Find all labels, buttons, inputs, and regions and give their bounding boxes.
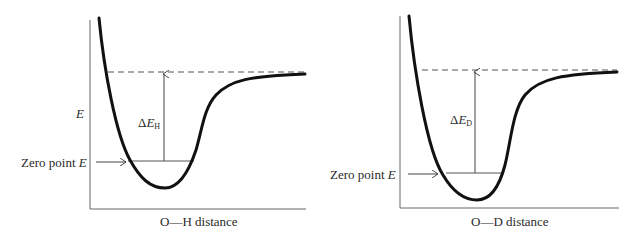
x-axis-label: O—D distance: [471, 215, 549, 228]
delta-e-h-label: ΔEH: [138, 116, 160, 131]
oh-potential-curve: [99, 18, 305, 188]
zero-point-e: E: [388, 167, 396, 182]
x-axis-label: O—H distance: [160, 215, 238, 228]
od-potential-plot: [319, 0, 638, 241]
zero-point-text: Zero point: [330, 167, 388, 182]
y-axis-label: E: [76, 107, 84, 120]
od-potential-curve: [409, 16, 617, 200]
delta-subscript: H: [154, 122, 160, 131]
zero-point-label: Zero point E: [330, 168, 396, 181]
zero-point-label: Zero point E: [21, 156, 87, 169]
delta-subscript: D: [466, 119, 472, 128]
delta-e-d-label: ΔED: [450, 113, 472, 128]
od-diagram-panel: ΔED Zero point E O—D distance: [319, 0, 638, 241]
zero-point-text: Zero point: [21, 155, 79, 170]
zero-point-e: E: [79, 155, 87, 170]
oh-diagram-panel: E ΔEH Zero point E O—H distance: [0, 0, 319, 241]
